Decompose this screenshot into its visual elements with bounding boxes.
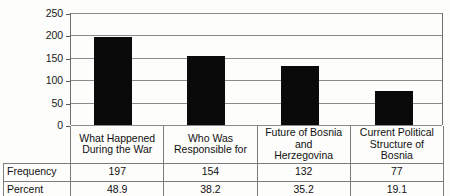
table-header-row: What Happened During the War Who Was Res…	[4, 126, 444, 163]
bar-current-political-structure-of-bosnia	[375, 91, 413, 126]
cell-frequency-2: 154	[164, 163, 257, 181]
cell-frequency-3: 132	[257, 163, 350, 181]
cell-percent-2: 38.2	[164, 181, 257, 196]
y-tick-label-200: 200	[46, 30, 63, 41]
row-label-frequency: Frequency	[4, 163, 71, 181]
y-tick-label-100: 100	[46, 75, 63, 86]
y-axis-tick-labels: 250 200 150 100 50 0	[0, 0, 63, 128]
table-header-who-was-responsible-for: Who Was Responsible for	[164, 126, 257, 163]
header-line-1: Future of Bosnia and	[260, 127, 348, 150]
header-line-2: Structure of Bosnia	[353, 139, 441, 162]
y-tick-label-250: 250	[46, 8, 63, 19]
table-row-frequency: Frequency 197 154 132 77	[4, 163, 444, 181]
bar-what-happened-during-the-war	[94, 37, 132, 125]
y-tick-label-50: 50	[52, 98, 63, 109]
table-corner-cell	[4, 126, 71, 163]
bar-chart: 250 200 150 100 50 0	[0, 0, 450, 128]
chart-page: 250 200 150 100 50 0	[0, 0, 450, 196]
cell-percent-4: 19.1	[350, 181, 443, 196]
header-line-2: Responsible for	[166, 144, 254, 156]
bar-future-of-bosnia-and-herzegovina	[281, 66, 319, 125]
cell-percent-1: 48.9	[71, 181, 164, 196]
cell-frequency-4: 77	[350, 163, 443, 181]
cell-percent-3: 35.2	[257, 181, 350, 196]
frequency-table: What Happened During the War Who Was Res…	[3, 126, 444, 196]
table-header-future-of-bosnia-and-herzegovina: Future of Bosnia and Herzegovina	[257, 126, 350, 163]
row-label-percent: Percent	[4, 181, 71, 196]
table-header-what-happened-during-the-war: What Happened During the War	[71, 126, 164, 163]
table-row-percent: Percent 48.9 38.2 35.2 19.1	[4, 181, 444, 196]
header-line-1: Current Political	[353, 127, 441, 139]
bar-who-was-responsible-for	[187, 56, 225, 125]
table-header-current-political-structure-of-bosnia: Current Political Structure of Bosnia	[350, 126, 443, 163]
y-tick-label-150: 150	[46, 53, 63, 64]
header-line-2: During the War	[73, 144, 161, 156]
bars-layer	[70, 13, 443, 125]
header-line-2: Herzegovina	[260, 150, 348, 162]
cell-frequency-1: 197	[71, 163, 164, 181]
